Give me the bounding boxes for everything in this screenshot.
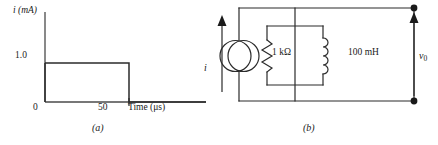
output-voltage-subscript: 0	[423, 54, 427, 63]
output-voltage-arrowhead	[410, 12, 419, 23]
terminal-dot-top	[411, 5, 418, 12]
resistor-label: 1 kΩ	[272, 48, 291, 58]
panel-b-circuit	[219, 0, 438, 145]
waveform-plot-svg	[0, 0, 219, 118]
plot-x-origin-label: 0	[33, 103, 38, 113]
current-source-circle-right	[228, 41, 259, 72]
plot-y-axis-label: i (mA)	[13, 6, 37, 16]
inductor-symbol	[323, 38, 328, 74]
current-source-circle-left	[220, 41, 251, 72]
circuit-diagram-svg	[219, 0, 438, 118]
figure-container: i (mA) 1.0 0 50 Time (μs)	[0, 0, 438, 145]
caption-panel-b: (b)	[303, 122, 315, 133]
inductor-label: 100 mH	[348, 48, 379, 58]
pulse-waveform-trace	[45, 63, 206, 102]
source-current-label: i	[204, 63, 207, 73]
resistor-symbol	[262, 40, 272, 72]
caption-panel-a: (a)	[92, 122, 104, 133]
terminal-dot-bottom	[411, 98, 418, 105]
output-voltage-label: v0	[419, 51, 427, 62]
panel-a-waveform: i (mA) 1.0 0 50 Time (μs)	[0, 0, 219, 145]
plot-x-axis-label: Time (μs)	[128, 103, 165, 113]
plot-x-tick-label: 50	[98, 103, 108, 113]
plot-y-tick-label: 1.0	[15, 51, 27, 61]
